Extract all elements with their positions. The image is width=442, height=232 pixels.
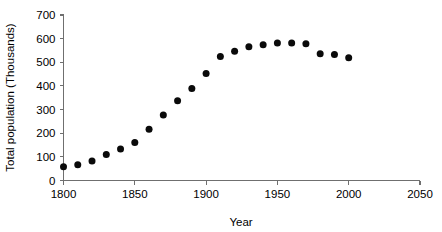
population-scatter-chart: 0100200300400500600700 18001850190019502… [0,0,442,232]
data-point [89,158,96,165]
data-point [117,146,124,153]
y-tick-label: 500 [36,56,55,68]
data-point [203,70,210,77]
y-axis-title: Total population (Thousands) [4,23,16,171]
y-tick-label: 400 [36,80,55,92]
data-point [231,48,238,55]
y-tick-label: 600 [36,33,55,45]
x-tick-label: 1900 [193,188,219,200]
data-point [217,53,224,60]
data-point [188,85,195,92]
data-point [60,163,67,170]
data-point [160,112,167,119]
x-tick-label: 1800 [51,188,77,200]
x-tick-label: 2050 [407,188,433,200]
data-point [146,126,153,133]
data-point [103,151,110,158]
y-tick-label: 700 [36,9,55,21]
data-point [274,39,281,46]
data-point [302,40,309,47]
data-point [345,54,352,61]
x-tick-label: 1850 [122,188,148,200]
data-point [174,97,181,104]
chart-canvas: 0100200300400500600700 18001850190019502… [0,0,442,232]
data-point [245,43,252,50]
x-tick-label: 2000 [336,188,362,200]
x-axis-title: Year [229,216,252,228]
x-tick-label: 1950 [265,188,291,200]
y-tick-label: 200 [36,127,55,139]
data-point [131,139,138,146]
y-tick-label: 0 [49,175,55,187]
data-point [331,51,338,58]
data-point [260,41,267,48]
data-point-group [60,39,352,170]
y-axis-tick-group: 0100200300400500600700 [36,9,63,187]
y-tick-label: 300 [36,104,55,116]
data-point [288,39,295,46]
y-tick-label: 100 [36,151,55,163]
data-point [74,161,81,168]
x-axis-tick-group: 180018501900195020002050 [51,181,433,200]
data-point [317,50,324,57]
